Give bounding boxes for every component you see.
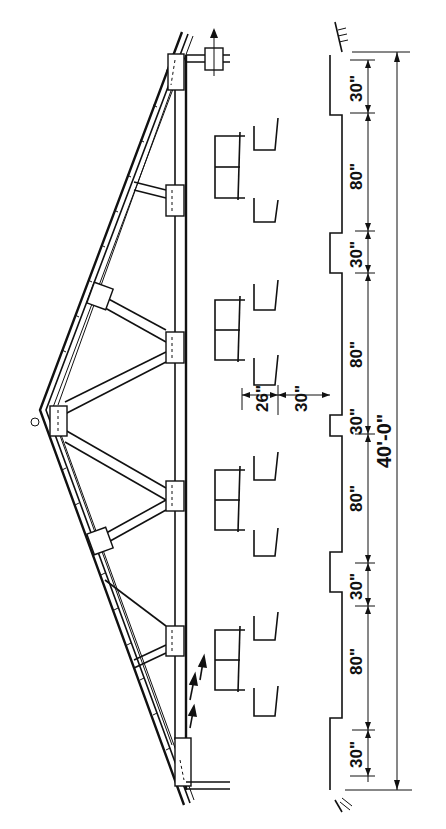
stall-depth-label: 26" xyxy=(253,385,272,412)
alley-width-label: 30" xyxy=(292,385,311,412)
gusset-plate xyxy=(166,332,184,363)
airflow-arrow-icon xyxy=(190,674,197,685)
overall-width-label: 40'-0" xyxy=(373,414,395,468)
ridge-cap xyxy=(31,418,39,426)
segment-label: 80" xyxy=(347,341,366,368)
truss-webs xyxy=(65,182,166,668)
segment-label: 30" xyxy=(347,75,366,102)
gusset-plate xyxy=(168,54,184,90)
wall-plates xyxy=(186,28,230,789)
gusset-plate xyxy=(166,481,184,511)
segment-label: 80" xyxy=(347,648,366,675)
segment-label: 30" xyxy=(347,573,366,600)
airflow-arrows xyxy=(189,656,206,728)
bottom-chord xyxy=(175,55,186,790)
gusset-plate-heel xyxy=(175,738,191,786)
building-section-drawing: 26" 30" 30" 80" 30" 80" xyxy=(0,0,446,829)
segment-label: 30" xyxy=(347,408,366,435)
airflow-arrow-icon xyxy=(199,656,206,667)
airflow-arrow-icon xyxy=(189,706,196,716)
segment-label: 30" xyxy=(347,741,366,768)
gusset-plates xyxy=(50,54,191,786)
segment-label: 80" xyxy=(347,485,366,512)
gusset-plate xyxy=(87,282,113,310)
segment-label: 30" xyxy=(347,241,366,268)
gusset-plate xyxy=(166,626,184,656)
dimension-chain: 30" 80" 30" 80" 30" 80" 30" 80" 30" xyxy=(347,60,375,782)
stalls xyxy=(215,118,278,716)
airflow-arrow-icon xyxy=(210,28,218,38)
segment-label: 80" xyxy=(347,163,366,190)
stall-dimension: 26" 30" xyxy=(242,385,330,415)
gusset-plate xyxy=(166,185,184,216)
